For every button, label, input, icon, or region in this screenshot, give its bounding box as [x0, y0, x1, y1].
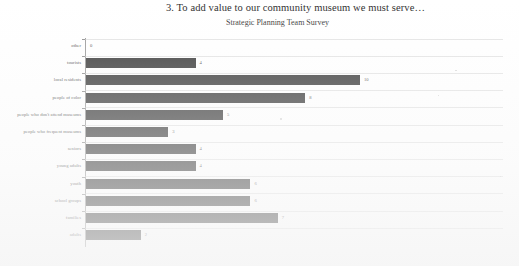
- bar-value-label: 2: [145, 232, 147, 238]
- bar-row: adults2: [0, 227, 519, 244]
- chart-subtitle: Strategic Planning Team Survey: [0, 18, 519, 27]
- bar-row: local residents10: [0, 72, 519, 89]
- bar-row: families7: [0, 210, 519, 227]
- bar[interactable]: [86, 144, 196, 154]
- category-label: school groups: [0, 198, 81, 204]
- axis-tick: [82, 56, 85, 57]
- bar[interactable]: [86, 179, 250, 189]
- bar-row: people who don't attend museums5: [0, 107, 519, 124]
- scan-speck: [438, 95, 439, 96]
- bar[interactable]: [86, 75, 360, 85]
- bar-value-label: 6: [254, 181, 256, 187]
- category-label: young adults: [0, 163, 81, 169]
- category-label: people who frequent museums: [0, 129, 81, 135]
- bar-value-label: 5: [227, 112, 229, 118]
- scan-speck: [280, 118, 282, 120]
- bar-row: young adults4: [0, 158, 519, 175]
- bar[interactable]: [86, 213, 278, 223]
- category-label: people who don't attend museums: [0, 112, 81, 118]
- bar-row: tourists4: [0, 55, 519, 72]
- bar-value-label: 0: [90, 43, 92, 49]
- axis-tick: [82, 125, 85, 126]
- axis-tick: [82, 228, 85, 229]
- plot-region: other0tourists4local residents10people o…: [0, 34, 519, 256]
- bar-value-label: 6: [254, 198, 256, 204]
- bar-row: youth6: [0, 176, 519, 193]
- axis-tick: [82, 211, 85, 212]
- bar-row: people who frequent museums3: [0, 124, 519, 141]
- axis-tick: [82, 39, 85, 40]
- chart-title: 3. To add value to our community museum …: [0, 2, 519, 13]
- category-label: families: [0, 215, 81, 221]
- chart-page: 3. To add value to our community museum …: [0, 0, 519, 266]
- category-label: other: [0, 43, 81, 49]
- axis-tick: [82, 91, 85, 92]
- bar[interactable]: [86, 161, 196, 171]
- axis-tick: [82, 194, 85, 195]
- axis-tick: [82, 159, 85, 160]
- bar[interactable]: [86, 127, 168, 137]
- axis-tick: [82, 108, 85, 109]
- axis-tick: [82, 142, 85, 143]
- bar-value-label: 8: [309, 95, 311, 101]
- bar-row: seniors4: [0, 141, 519, 158]
- category-label: tourists: [0, 60, 81, 66]
- category-label: people of color: [0, 95, 81, 101]
- bar-value-label: 7: [282, 215, 284, 221]
- scan-speck: [455, 70, 457, 71]
- bar[interactable]: [86, 110, 223, 120]
- category-label: youth: [0, 181, 81, 187]
- bar-value-label: 3: [172, 129, 174, 135]
- category-label: adults: [0, 232, 81, 238]
- chart-subtitle-text: Strategic Planning Team Survey: [226, 18, 329, 27]
- axis-tick: [82, 177, 85, 178]
- bar[interactable]: [86, 58, 196, 68]
- bar-value-label: 4: [200, 163, 202, 169]
- bar-row: school groups6: [0, 193, 519, 210]
- bar[interactable]: [86, 196, 250, 206]
- scan-speck: [500, 176, 501, 177]
- bar-row: people of color8: [0, 90, 519, 107]
- bar[interactable]: [86, 93, 305, 103]
- bar-value-label: 4: [200, 60, 202, 66]
- bar-row: other0: [0, 38, 519, 55]
- bar-value-label: 10: [364, 77, 369, 83]
- category-label: seniors: [0, 146, 81, 152]
- axis-tick: [82, 73, 85, 74]
- chart-title-text: 3. To add value to our community museum …: [166, 2, 425, 13]
- bar[interactable]: [86, 230, 141, 240]
- category-label: local residents: [0, 77, 81, 83]
- bar-value-label: 4: [200, 146, 202, 152]
